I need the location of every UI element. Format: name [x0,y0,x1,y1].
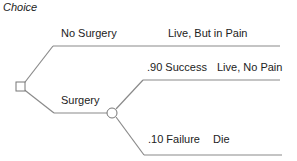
success-label: .90 Success [147,61,207,73]
success-outcome: Live, No Pain [217,61,282,73]
surgery-label: Surgery [61,94,100,106]
failure-outcome: Die [213,133,230,145]
no-surgery-outcome: Live, But in Pain [168,27,248,39]
decision-node-icon [16,82,25,91]
failure-label: .10 Failure [148,133,200,145]
chance-node-icon [107,108,117,118]
diagram-title: Choice [3,1,37,13]
no-surgery-label: No Surgery [61,27,117,39]
